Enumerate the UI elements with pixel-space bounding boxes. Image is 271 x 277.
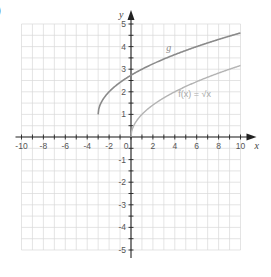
y-tick-label: 3 xyxy=(121,64,126,74)
y-tick-label: -4 xyxy=(118,222,126,232)
y-tick-label: 5 xyxy=(121,19,126,29)
y-tick-label: 2 xyxy=(121,87,126,97)
x-tick-label: 0 xyxy=(124,141,129,151)
y-tick-label: -2 xyxy=(118,177,126,187)
x-tick-label: -8 xyxy=(40,141,48,151)
y-axis-label: y xyxy=(118,9,124,20)
x-tick-label: -4 xyxy=(83,141,91,151)
x-tick-label: 8 xyxy=(216,141,221,151)
curve-label-g: g xyxy=(166,42,171,53)
x-axis-label: x xyxy=(254,140,260,151)
y-tick-label: 4 xyxy=(121,42,126,52)
y-tick-label: -1 xyxy=(118,155,126,165)
axes xyxy=(16,10,257,258)
y-axis-arrow-icon xyxy=(128,10,135,20)
x-tick-label: -10 xyxy=(15,141,28,151)
x-tick-label: 4 xyxy=(172,141,177,151)
function-graph: ) -10-8-6-4-20246810-5-4-3-2-112345 x y … xyxy=(0,0,271,277)
x-tick-label: -6 xyxy=(62,141,70,151)
part-label: ) xyxy=(0,3,1,17)
y-tick-label: -3 xyxy=(118,200,126,210)
x-tick-label: 6 xyxy=(194,141,199,151)
x-tick-label: 10 xyxy=(236,141,246,151)
x-tick-label: 2 xyxy=(151,141,156,151)
curve-label-f: f(x) = √x xyxy=(178,89,211,99)
x-tick-label: -2 xyxy=(105,141,113,151)
y-tick-label: -5 xyxy=(118,245,126,255)
y-tick-label: 1 xyxy=(121,109,126,119)
